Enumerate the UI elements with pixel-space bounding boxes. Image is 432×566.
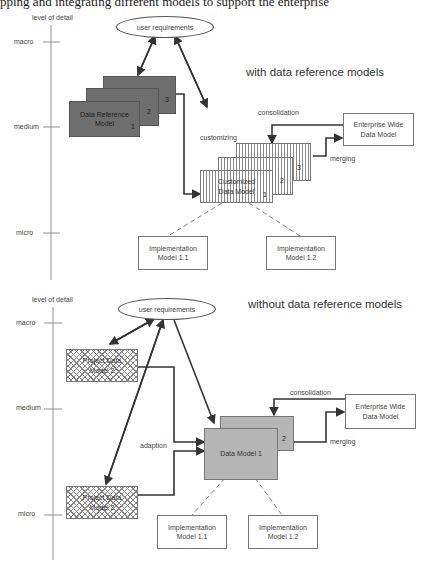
ref-num-1: 1: [131, 123, 135, 130]
customizing-label: customizing: [200, 134, 237, 141]
level-medium-bottom: medium: [16, 404, 41, 411]
user-requirements-top: user requirements: [116, 16, 214, 38]
ref-num-2: 2: [147, 108, 151, 115]
consolidation-label-bottom: consolidation: [290, 389, 331, 396]
impl-model-1-1-bottom: Implementation Model 1.1: [157, 515, 227, 549]
level-macro-top: macro: [14, 38, 33, 45]
enterprise-model-bottom: Enterprise Wide Data Model: [345, 394, 416, 429]
customized-data-model: Customized Data Model: [200, 170, 273, 203]
impl-model-1-1-top: Implementation Model 1.1: [138, 236, 208, 270]
merging-label-top: merging: [330, 155, 355, 162]
data-model-1: Data Model 1: [204, 428, 278, 480]
enterprise-model-top: Enterprise Wide Data Model: [343, 113, 414, 146]
level-micro-bottom: micro: [18, 510, 35, 517]
project-data-model-b: Project Data Model 2: [66, 486, 138, 519]
cust-num-3: 3: [297, 164, 301, 171]
cust-num-1: 1: [263, 191, 267, 198]
axis-label-top: level of detail: [32, 14, 73, 21]
ref-num-3: 3: [165, 96, 169, 103]
level-medium-top: medium: [14, 123, 39, 130]
axis-label-bottom: level of detail: [32, 296, 73, 303]
diagram-title-top: with data reference models: [246, 66, 384, 78]
data-model-num-2: 2: [282, 435, 286, 442]
level-micro-top: micro: [16, 229, 33, 236]
impl-model-1-2-bottom: Implementation Model 1.2: [248, 515, 318, 549]
adaption-label: adaption: [140, 442, 167, 449]
impl-model-1-2-top: Implementation Model 1.2: [266, 236, 336, 270]
diagram-title-bottom: without data reference models: [248, 298, 402, 310]
cust-num-2: 2: [280, 177, 284, 184]
merging-label-bottom: merging: [330, 438, 355, 445]
user-requirements-bottom: user requirements: [118, 298, 216, 320]
project-data-model-a: Project Data Model 2: [66, 349, 138, 382]
connector-lines: [0, 0, 432, 566]
level-macro-bottom: macro: [16, 319, 35, 326]
data-reference-model: Data Reference Model: [69, 101, 140, 137]
consolidation-label-top: consolidation: [258, 109, 299, 116]
